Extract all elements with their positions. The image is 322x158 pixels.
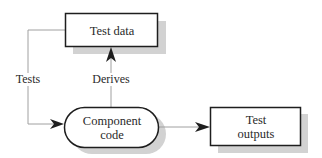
derives-edge-label: Derives: [89, 73, 133, 86]
test-outputs-line1: Test: [246, 113, 267, 127]
component-code-line1: Component: [83, 114, 141, 128]
component-code-node: Component code: [65, 108, 159, 148]
tests-edge-label: Tests: [13, 73, 43, 86]
component-code-line2: code: [100, 128, 124, 142]
test-data-label: Test data: [90, 24, 135, 38]
test-outputs-node: Test outputs: [211, 108, 301, 146]
test-outputs-line2: outputs: [238, 127, 275, 141]
test-data-node: Test data: [66, 14, 158, 47]
